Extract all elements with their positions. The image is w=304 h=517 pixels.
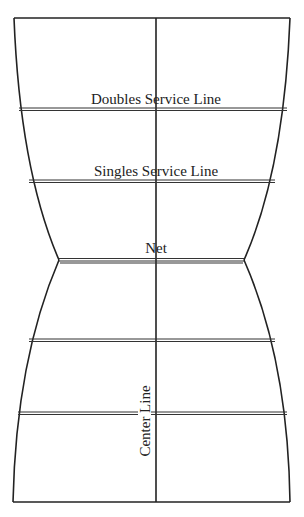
singles-service-line-label: Singles Service Line	[94, 163, 218, 179]
right-sideline-bottom	[244, 260, 290, 502]
left-sideline-top	[14, 18, 59, 260]
net-line	[59, 259, 244, 264]
court-diagram: Doubles Service Line Singles Service Lin…	[0, 0, 304, 517]
singles-service-line-bottom	[29, 339, 275, 342]
center-line-label: Center Line	[137, 385, 153, 457]
doubles-service-line-top	[19, 108, 287, 111]
doubles-service-line-label: Doubles Service Line	[91, 91, 221, 107]
net-label: Net	[145, 240, 167, 256]
left-sideline-bottom	[13, 260, 59, 502]
right-sideline-top	[244, 18, 290, 260]
singles-service-line-top	[29, 180, 275, 183]
